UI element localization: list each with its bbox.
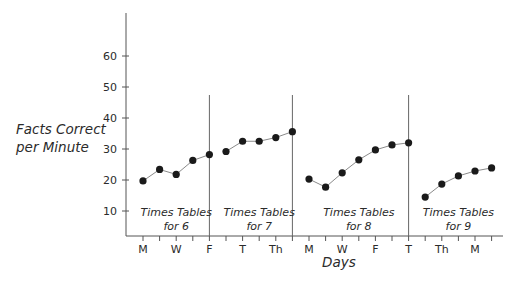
data-point: [405, 139, 412, 146]
data-point: [322, 184, 329, 191]
series-group: [139, 128, 495, 201]
phase-label-line-1: Times Tables: [423, 206, 495, 219]
data-point: [289, 128, 296, 135]
data-point: [222, 148, 229, 155]
x-tick-label: M: [304, 243, 314, 256]
data-point: [372, 146, 379, 153]
data-point: [438, 180, 445, 187]
phase-label-line-1: Times Tables: [323, 206, 395, 219]
x-tick-label: T: [238, 243, 246, 256]
series-line: [309, 143, 409, 187]
data-point: [173, 171, 180, 178]
y-tick-label: 20: [103, 174, 117, 187]
data-point: [388, 141, 395, 148]
x-tick-label: M: [138, 243, 148, 256]
data-point: [355, 156, 362, 163]
phase-label-line-2: for 9: [446, 220, 472, 233]
x-tick-label: M: [470, 243, 480, 256]
x-axis-title: Days: [322, 254, 356, 270]
y-axis-title-line-2: per Minute: [16, 138, 106, 156]
data-point: [256, 138, 263, 145]
data-point: [488, 164, 495, 171]
series-line: [425, 168, 491, 197]
data-point: [471, 167, 478, 174]
x-tick-label: Th: [434, 243, 449, 256]
data-point: [455, 172, 462, 179]
data-point: [305, 175, 312, 182]
phase-labels: Times Tablesfor 6Times Tablesfor 7Times …: [141, 206, 495, 233]
phase-label-line-2: for 8: [346, 220, 372, 233]
data-point: [339, 169, 346, 176]
y-axis-title-line-1: Facts Correct: [16, 120, 106, 138]
series-4: [422, 164, 496, 200]
data-point: [139, 177, 146, 184]
series-2: [222, 128, 296, 155]
x-tick-label: Th: [268, 243, 283, 256]
data-point: [189, 157, 196, 164]
y-tick-label: 50: [103, 81, 117, 94]
x-tick-label: F: [206, 243, 212, 256]
data-point: [422, 193, 429, 200]
series-1: [139, 151, 213, 185]
data-point: [239, 138, 246, 145]
x-tick-label: F: [372, 243, 378, 256]
phase-label-line-1: Times Tables: [224, 206, 296, 219]
phase-label-line-2: for 6: [163, 220, 189, 233]
x-tick-label: T: [404, 243, 412, 256]
y-tick-label: 60: [103, 50, 117, 63]
phase-label-line-2: for 7: [246, 220, 272, 233]
y-axis-title: Facts Correct per Minute: [16, 120, 106, 156]
data-point: [206, 151, 213, 158]
series-3: [305, 139, 412, 191]
data-point: [156, 166, 163, 173]
phase-label-line-1: Times Tables: [141, 206, 213, 219]
x-tick-label: W: [171, 243, 182, 256]
y-tick-label: 10: [103, 205, 117, 218]
data-point: [272, 134, 279, 141]
